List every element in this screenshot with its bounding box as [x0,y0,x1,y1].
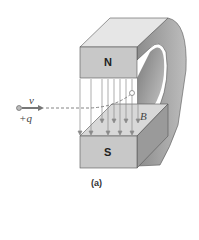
charge-particle [17,106,22,111]
field-label: B [140,110,147,122]
figure-caption: (a) [91,178,102,188]
charge-label: +q [19,112,32,124]
south-pole-label: S [104,146,111,158]
north-pole-label: N [104,56,112,68]
velocity-label: v [29,94,34,106]
